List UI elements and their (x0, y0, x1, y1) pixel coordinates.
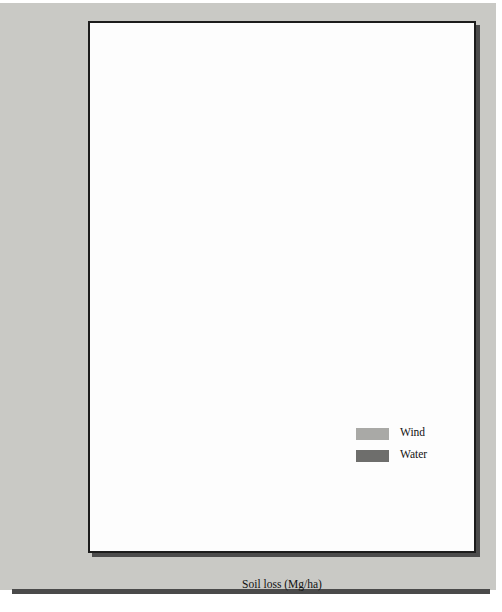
legend-swatch-wind-icon (356, 428, 389, 440)
chart-legend: Wind Water (356, 426, 456, 472)
category-axis-labels (0, 0, 84, 612)
legend-label-water: Water (400, 448, 427, 460)
legend-label-wind: Wind (400, 426, 425, 438)
legend-swatch-water-icon (356, 450, 389, 462)
page-edge-right (496, 0, 502, 612)
legend-item-wind[interactable]: Wind (356, 428, 456, 440)
figure-page: Soil loss (Mg/ha) Wind Water (0, 0, 502, 612)
plot-area (88, 21, 476, 553)
legend-item-water[interactable]: Water (356, 450, 456, 462)
x-axis-title: Soil loss (Mg/ha) (88, 578, 476, 590)
